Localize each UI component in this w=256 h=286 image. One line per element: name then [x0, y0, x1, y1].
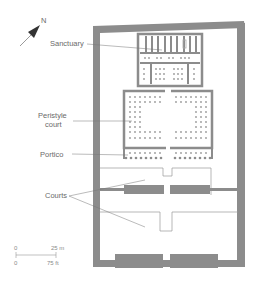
- portico: [124, 148, 212, 159]
- label-courts: Courts: [45, 191, 67, 200]
- temple-plan-diagram: N: [0, 0, 256, 286]
- peristyle-columns: [129, 96, 207, 139]
- scale-metric-max: 25 m: [51, 245, 64, 251]
- sanctuary-block: [138, 34, 202, 86]
- second-court: [100, 212, 238, 231]
- north-arrow-icon: [20, 25, 40, 46]
- scale-bar: 0 25 m 0 75 ft: [14, 245, 64, 266]
- leader-lines: [69, 44, 162, 227]
- scale-imperial-zero: 0: [14, 260, 18, 266]
- scale-imperial-max: 75 ft: [47, 260, 59, 266]
- scale-metric-zero: 0: [14, 245, 18, 251]
- label-portico: Portico: [40, 150, 63, 159]
- first-pylon: [100, 185, 238, 194]
- north-label: N: [41, 16, 46, 25]
- label-peristyle-line1: Peristyle: [38, 111, 67, 120]
- label-peristyle-line2: court: [45, 120, 63, 129]
- peristyle-court: [124, 91, 212, 148]
- label-sanctuary: Sanctuary: [50, 39, 84, 48]
